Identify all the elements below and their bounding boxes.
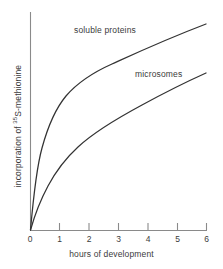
x-tick-label-6: 6	[200, 234, 214, 244]
y-axis-title-superscript: 35	[12, 117, 18, 124]
x-tick-label-2: 2	[82, 234, 96, 244]
chart-figure: soluble proteins microsomes 0 1 2 3 4 5 …	[0, 0, 223, 269]
series-curve-microsomes	[31, 73, 207, 230]
series-label-soluble-proteins: soluble proteins	[74, 25, 136, 35]
x-tick-label-0: 0	[23, 234, 37, 244]
x-tick-label-1: 1	[53, 234, 67, 244]
x-axis-title: hours of development	[0, 249, 223, 259]
y-axis-title: incorporation of 35S-methionine	[13, 46, 23, 206]
series-label-microsomes: microsomes	[135, 69, 182, 79]
y-axis-title-prefix: incorporation of	[13, 124, 23, 188]
x-tick-label-5: 5	[171, 234, 185, 244]
x-tick-label-4: 4	[141, 234, 155, 244]
series-curve-soluble-proteins	[31, 24, 207, 230]
x-axis-ticks	[60, 223, 207, 230]
x-tick-label-3: 3	[112, 234, 126, 244]
y-axis-title-suffix: S-methionine	[13, 65, 23, 117]
plot-area	[0, 0, 223, 269]
